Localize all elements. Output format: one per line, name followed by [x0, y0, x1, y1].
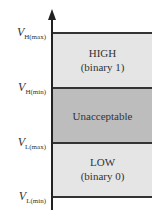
- unacceptable-band-label: Unacceptable: [53, 109, 152, 123]
- axis-arrow-up-icon: [48, 9, 56, 20]
- high-band-label: HIGH (binary 1): [53, 46, 152, 74]
- unacceptable-label: Unacceptable: [53, 109, 152, 123]
- high-label: HIGH: [53, 46, 152, 60]
- vl-max-label: VL(max): [18, 136, 46, 153]
- low-detail: (binary 0): [53, 169, 152, 183]
- vh-min-label: VH(min): [18, 81, 46, 98]
- vh-max-label: VH(max): [17, 26, 46, 43]
- vh-min-line: [52, 87, 152, 89]
- low-label: LOW: [53, 155, 152, 169]
- vh-max-line: [52, 32, 152, 34]
- low-band-label: LOW (binary 0): [53, 155, 152, 183]
- vl-min-line: [52, 196, 152, 198]
- high-detail: (binary 1): [53, 60, 152, 74]
- vl-max-line: [52, 142, 152, 144]
- vl-min-label: VL(min): [19, 190, 46, 207]
